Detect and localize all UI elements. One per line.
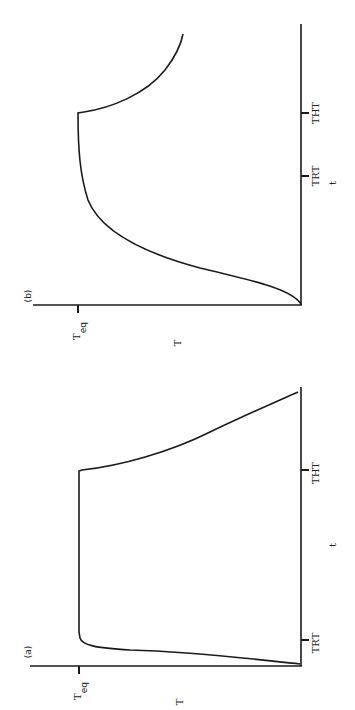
panel-b-T-axis-label: T [172, 339, 183, 346]
panel-a-curve [79, 392, 300, 664]
panel-b: (b) Teq T TRT THT t [23, 24, 338, 346]
panel-a-T-axis-label: T [174, 698, 185, 705]
panel-a: (a) Teq T TRT THT t [23, 387, 338, 705]
panel-b-tht-label: THT [310, 102, 321, 124]
panel-a-t-axis-label: t [327, 543, 338, 547]
panel-a-trt-label: TRT [310, 632, 321, 653]
panel-b-t-axis-label: t [327, 181, 338, 185]
panel-b-label: (b) [23, 290, 33, 303]
panel-a-teq-label: Teq [72, 682, 89, 700]
panel-a-tht-label: THT [310, 462, 321, 484]
figure: (b) Teq T TRT THT t (a) Teq T TRT THT t [0, 0, 355, 710]
panel-b-trt-label: TRT [310, 165, 321, 186]
panel-a-label: (a) [23, 646, 33, 659]
panel-b-teq-label: Teq [71, 322, 88, 340]
panel-b-curve [78, 34, 301, 304]
